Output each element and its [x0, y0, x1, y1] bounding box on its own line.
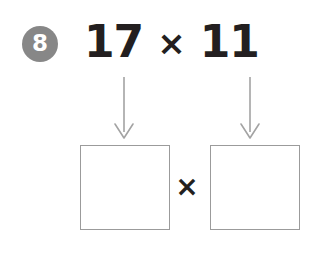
- right-operand: 11: [200, 20, 259, 64]
- left-operand: 17: [84, 20, 143, 64]
- arrow-down-left-icon: [111, 76, 137, 140]
- multiplication-operator: ×: [157, 26, 186, 60]
- question-number-badge: 8: [22, 26, 58, 62]
- arrow-down-right-icon: [237, 76, 263, 140]
- worksheet-problem-8: 8 17 × 11 ×: [0, 0, 325, 254]
- question-number-text: 8: [32, 32, 48, 55]
- answer-box-left[interactable]: [80, 145, 170, 230]
- answer-multiplication-operator: ×: [172, 170, 202, 204]
- answer-box-right[interactable]: [210, 145, 300, 230]
- problem-expression: 17 × 11: [84, 16, 259, 68]
